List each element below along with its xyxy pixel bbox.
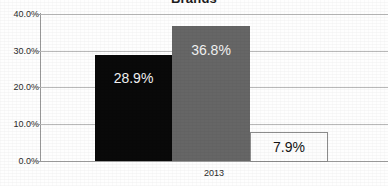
bar-value-label-3: 7.9% <box>251 140 327 154</box>
bar-series-1[interactable]: 28.9% <box>95 55 172 161</box>
chart-title: Brands <box>0 0 388 6</box>
y-axis-tick-label-40: 40.0% <box>1 10 39 19</box>
bar-series-3[interactable]: 7.9% <box>250 132 328 162</box>
bar-value-label-1: 28.9% <box>95 71 172 85</box>
gridline-40 <box>40 14 388 15</box>
plot-area: 28.9% 36.8% 7.9% <box>40 14 388 161</box>
y-axis-tick-label-30: 30.0% <box>1 47 39 56</box>
y-axis-tick-label-10: 10.0% <box>1 120 39 129</box>
gridline-baseline-0 <box>40 161 388 162</box>
y-axis-tick-label-20: 20.0% <box>1 83 39 92</box>
x-axis-category-label: 2013 <box>40 168 388 178</box>
bar-chart: Brands 40.0% 30.0% 20.0% 10.0% 0.0% 28.9… <box>0 0 388 186</box>
bar-value-label-2: 36.8% <box>172 43 250 57</box>
y-axis-tick-label-0: 0.0% <box>1 157 39 166</box>
bar-series-2[interactable]: 36.8% <box>172 26 250 161</box>
